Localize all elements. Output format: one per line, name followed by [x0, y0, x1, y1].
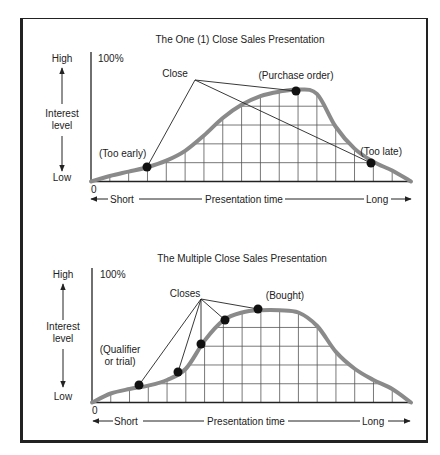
y-axis-label-line2: level [53, 333, 74, 344]
figure-canvas: The One (1) Close Sales Presentation Hig… [0, 0, 440, 455]
x-long-label: Long [366, 194, 388, 205]
panel-multiple-close: The Multiple Close Sales Presentation Hi… [46, 253, 412, 427]
y-high-label: High [53, 269, 74, 280]
annotation-too-late: (Too late) [360, 146, 402, 157]
close-label: Close [162, 68, 188, 79]
x-axis-label: Presentation time [205, 194, 283, 205]
close-point-too-early [143, 163, 152, 172]
annotation-qualifier-line1: (Qualifier [100, 344, 141, 355]
annotation-qualifier-line2: or trial) [104, 356, 135, 367]
panel-one-close: The One (1) Close Sales Presentation Hig… [45, 34, 412, 205]
close-point-4 [221, 316, 230, 325]
y-axis-label-line1: Interest [45, 108, 79, 119]
annotation-too-early: (Too early) [99, 148, 146, 159]
grid [91, 67, 411, 182]
y-low-label: Low [53, 172, 72, 183]
x-origin-label: 0 [91, 184, 97, 195]
close-point-purchase-order [292, 87, 301, 96]
y-axis-label-line2: level [52, 120, 73, 131]
closes-label: Closes [170, 288, 201, 299]
close-point-qualifier [135, 381, 144, 390]
y-max-label: 100% [98, 53, 124, 64]
close-point-bought [254, 305, 263, 314]
x-short-label: Short [114, 416, 138, 427]
panel-title: The Multiple Close Sales Presentation [157, 253, 327, 264]
x-short-label: Short [110, 194, 134, 205]
x-origin-label: 0 [92, 405, 98, 416]
interest-curve [91, 89, 411, 181]
x-axis-label: Presentation time [207, 416, 285, 427]
annotation-bought: (Bought) [266, 290, 304, 301]
annotation-purchase-order: (Purchase order) [258, 70, 333, 81]
y-max-label: 100% [100, 269, 126, 280]
x-long-label: Long [362, 416, 384, 427]
close-point-3 [197, 340, 206, 349]
close-point-too-late [367, 159, 376, 168]
y-high-label: High [52, 53, 73, 64]
y-low-label: Low [54, 391, 73, 402]
close-point-2 [174, 368, 183, 377]
panel-title: The One (1) Close Sales Presentation [156, 34, 325, 45]
y-axis-label-line1: Interest [46, 321, 80, 332]
